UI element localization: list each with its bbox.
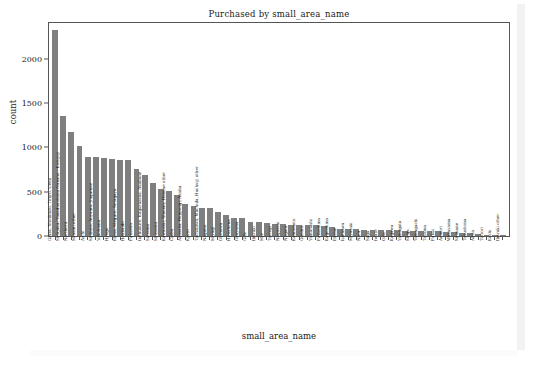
x-axis-tick-label: Tottori xyxy=(480,227,484,241)
x-axis-label-slot: Okayama xyxy=(238,241,246,329)
x-axis-label-slot: Saitama xyxy=(149,241,157,329)
plot-area xyxy=(49,23,509,236)
bar-slot xyxy=(409,23,417,236)
x-axis-tick-label: Kyoto xyxy=(187,229,191,241)
bar-slot xyxy=(466,23,474,236)
x-axis-label-slot: Nagano xyxy=(206,241,214,329)
x-axis-label-slot: Akita xyxy=(474,241,482,329)
x-axis-tick-label: Kagoshima xyxy=(325,218,329,241)
bar-slot xyxy=(149,23,157,236)
bar-slot xyxy=(238,23,246,236)
x-axis-tick-label: Fukuoka xyxy=(130,223,134,241)
bar-slot xyxy=(360,23,368,236)
x-axis-label-slot: Ibaraki other xyxy=(499,241,507,329)
x-axis-tick-label: Mie xyxy=(260,233,264,241)
x-axis-label-slot: Ibaraki xyxy=(255,241,263,329)
x-axis-label-slot: Akasaka, Roppongi, Azabu xyxy=(181,241,189,329)
chart-title: Purchased by small_area_name xyxy=(48,9,510,19)
x-axis-label-slot: Toyama xyxy=(425,241,433,329)
x-axis-label-slot: Hyogo xyxy=(108,241,116,329)
x-axis-label-slot: Okinawa xyxy=(222,241,230,329)
bar-slot xyxy=(263,23,271,236)
x-axis-label-slot: Saga xyxy=(368,241,376,329)
x-axis-tick-label: Akita xyxy=(472,230,476,241)
x-axis-tick-label: Fukushima xyxy=(317,218,321,241)
x-axis-tick-label: Yamaguchi xyxy=(415,218,419,241)
x-axis-tick-label: Saitama xyxy=(146,224,150,241)
x-axis-label-slot: Kagawa xyxy=(393,241,401,329)
bar-slot xyxy=(320,23,328,236)
bar-slot xyxy=(458,23,466,236)
x-axis-label-slot: Iwate xyxy=(377,241,385,329)
x-axis-label-slot: Shibuya, Aoyama, Jingumae xyxy=(92,241,100,329)
bar[interactable] xyxy=(77,146,83,236)
x-axis-tick-mark xyxy=(478,237,479,240)
x-axis-tick-mark xyxy=(421,237,422,240)
bar-slot xyxy=(401,23,409,236)
bar-slot xyxy=(336,23,344,236)
bar[interactable] xyxy=(60,116,66,236)
x-axis-label-slot: Aomori xyxy=(442,241,450,329)
x-axis-tick-mark xyxy=(307,237,308,240)
x-axis-tick-label: Wakayama xyxy=(447,219,451,241)
x-axis-label-slot: Gunma xyxy=(303,241,311,329)
bar[interactable] xyxy=(101,158,107,236)
bar-slot xyxy=(474,23,482,236)
x-axis-tick-label: Ebisu, Meguro, Setagaya xyxy=(114,189,118,241)
x-axis-tick-label: Iwate xyxy=(374,229,378,241)
x-axis-tick-label: Chiba xyxy=(171,229,175,241)
bar-slot xyxy=(246,23,254,236)
x-axis-tick-label: Ibaraki xyxy=(252,226,256,241)
x-axis-tick-label: Kochi xyxy=(488,229,492,241)
x-axis-tick-label: Ginza, Shinbashi, Tokyo, Ueno xyxy=(48,178,52,241)
x-axis-tick-labels: Ginza, Shinbashi, Tokyo, UenoShinjuku, T… xyxy=(49,241,509,329)
x-axis-tick-label: Aichi xyxy=(81,230,85,241)
x-axis-tick-mark xyxy=(364,237,365,240)
x-axis-label: small_area_name xyxy=(48,331,510,341)
bar-slot xyxy=(328,23,336,236)
x-axis-label-slot: Tachikawa, Machida, Hachioji other xyxy=(198,241,206,329)
x-axis-tick-label: Shibuya, Aoyama, Jingumae xyxy=(89,183,93,241)
y-axis-tick-marks xyxy=(0,22,48,237)
page-edge-shadow-right xyxy=(517,4,525,350)
x-axis-tick-label: Hokkaido xyxy=(122,221,126,241)
x-axis-tick-label: Akasaka, Roppongi, Azabu xyxy=(179,186,183,241)
bar-slot xyxy=(482,23,490,236)
bar-slot xyxy=(124,23,132,236)
x-axis-label-slot: Ishikawa xyxy=(344,241,352,329)
bar-slot xyxy=(271,23,279,236)
x-axis-tick-label: Kagawa xyxy=(390,224,394,241)
bar-slot xyxy=(434,23,442,236)
x-axis-tick-label: Nara xyxy=(358,231,362,241)
x-axis-tick-label: Nagano xyxy=(203,225,207,241)
x-axis-tick-label: Toyama xyxy=(423,225,427,241)
bar-slot xyxy=(491,23,499,236)
x-axis-label-slot: Yamaguchi xyxy=(417,241,425,329)
x-axis-label-slot: Yamanashi xyxy=(312,241,320,329)
x-axis-tick-label: Tokushima xyxy=(464,219,468,241)
x-axis-tick-label: Yamanashi xyxy=(309,219,313,241)
x-axis-label-slot: Shizuoka xyxy=(157,241,165,329)
bar-slot xyxy=(303,23,311,236)
x-axis-label-slot: Wakayama xyxy=(450,241,458,329)
x-axis-label-slot: Nagasaki xyxy=(279,241,287,329)
bar-slot xyxy=(279,23,287,236)
bar-slot xyxy=(100,23,108,236)
x-axis-label-slot: Oita xyxy=(385,241,393,329)
bar-slot xyxy=(255,23,263,236)
bar-slot xyxy=(312,23,320,236)
x-axis-tick-mark xyxy=(502,237,503,240)
x-axis-tick-label: Ikebukuro, Kagurazaka, Akabane xyxy=(138,172,142,241)
x-axis-label-slot: Niigata xyxy=(287,241,295,329)
x-axis-tick-mark xyxy=(250,237,251,240)
bar-slot xyxy=(287,23,295,236)
x-axis-label-slot: Fukushima xyxy=(320,241,328,329)
x-axis-label-slot: Ikebukuro, Kagurazaka, Akabane xyxy=(141,241,149,329)
x-axis-label-slot: Hokkaido xyxy=(124,241,132,329)
x-axis-label-slot: Yamagata xyxy=(401,241,409,329)
x-axis-tick-label: Northern xyxy=(65,222,69,241)
bar-slot xyxy=(450,23,458,236)
x-axis-tick-label: Yokohama xyxy=(97,220,101,241)
x-axis-tick-label: Aomori xyxy=(439,226,443,241)
bar-slot xyxy=(295,23,303,236)
